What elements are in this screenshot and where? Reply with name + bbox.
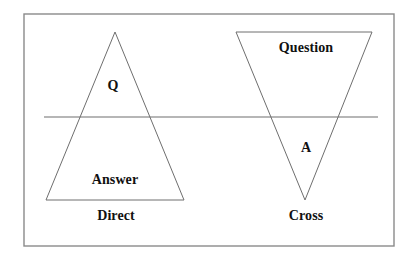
figure-root: Q Answer Direct Question A Cross — [0, 0, 418, 261]
figure-background — [0, 0, 418, 261]
diagram-canvas — [0, 0, 418, 261]
